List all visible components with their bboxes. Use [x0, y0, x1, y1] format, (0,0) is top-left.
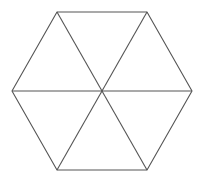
spoke-line-0	[57, 12, 102, 91]
spoke-line-1	[102, 12, 147, 91]
spoke-line-4	[57, 91, 102, 170]
hexagon-diagram	[0, 0, 206, 176]
spoke-line-3	[102, 91, 147, 170]
hexagon-spokes	[12, 12, 192, 170]
